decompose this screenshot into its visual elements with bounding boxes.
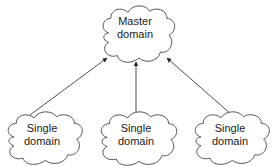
master-label-line1: Master	[105, 15, 165, 28]
master-label: Master domain	[105, 15, 165, 41]
child-label-3-line2: domain	[200, 135, 260, 148]
master-label-line2: domain	[105, 28, 165, 41]
arrows	[30, 58, 232, 115]
child-label-2-line2: domain	[106, 135, 166, 148]
child-label-1-line1: Single	[12, 122, 72, 135]
child-label-3-line1: Single	[200, 122, 260, 135]
child-label-2-line1: Single	[106, 122, 166, 135]
child-label-1: Single domain	[12, 122, 72, 148]
child-label-3: Single domain	[200, 122, 260, 148]
child-label-2: Single domain	[106, 122, 166, 148]
child-label-1-line2: domain	[12, 135, 72, 148]
